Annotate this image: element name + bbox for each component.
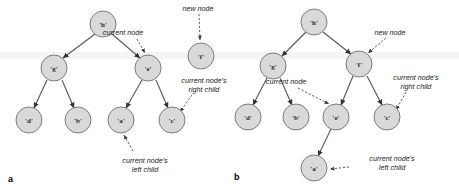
node-label: 'd'	[244, 114, 252, 122]
node-label: 'a'	[117, 117, 124, 125]
tree-node-f[interactable]: 'f'	[346, 51, 372, 77]
node-label: 'e'	[145, 65, 152, 73]
tree-node-b[interactable]: 'b'	[65, 107, 91, 133]
annotation-right-child-line2: right child	[401, 82, 433, 91]
tree-node-a[interactable]: 'a'	[108, 107, 134, 133]
edge-f-e	[341, 76, 353, 105]
leader-right-child	[180, 95, 192, 112]
panel-b-annotations: new node current node current node's rig…	[266, 28, 439, 172]
binary-tree-rotation-figure: 'h' 'g' 'e' 'f' 'd' 'b'	[0, 0, 459, 194]
annotation-left-child-line2: left child	[379, 163, 406, 172]
node-label: 'h'	[310, 19, 318, 27]
annotation-left-child-line2: left child	[132, 165, 159, 174]
panel-a-annotations: current node new node current node's rig…	[103, 4, 227, 174]
panel-b-edges	[253, 32, 382, 156]
node-label: 'a'	[310, 165, 317, 173]
tree-node-a[interactable]: 'a'	[301, 155, 327, 181]
tree-node-h[interactable]: 'h'	[301, 9, 327, 35]
panel-label-a: a	[8, 174, 14, 184]
panel-a: 'h' 'g' 'e' 'f' 'd' 'b'	[8, 4, 227, 184]
leader-current-node	[137, 39, 145, 53]
leader-right-child	[396, 92, 406, 110]
annotation-left-child-line1: current node's	[369, 154, 415, 163]
edge-e-c	[156, 80, 168, 108]
node-label: 'g'	[269, 63, 276, 71]
leader-left-child	[124, 135, 133, 151]
node-label: 'f'	[198, 53, 204, 61]
tree-node-f[interactable]: 'f'	[188, 43, 214, 69]
node-label: 'e'	[333, 114, 340, 122]
annotation-current-node: current node	[266, 77, 306, 86]
edge-g-b	[62, 80, 74, 108]
tree-node-d[interactable]: 'd'	[16, 107, 42, 133]
annotation-right-child-line2: right child	[189, 85, 221, 94]
node-label: 'b'	[74, 117, 82, 125]
node-label: 'd'	[25, 117, 33, 125]
annotation-new-node: new node	[374, 28, 405, 37]
leader-current-node	[298, 88, 329, 104]
tree-node-e[interactable]: 'e'	[323, 104, 349, 130]
edge-f-c	[367, 76, 382, 105]
tree-node-c[interactable]: 'c'	[159, 107, 185, 133]
annotation-right-child-line1: current node's	[393, 73, 439, 82]
node-label: 'g'	[50, 65, 57, 73]
edge-h-f	[323, 32, 351, 54]
panel-label-b: b	[234, 172, 240, 182]
annotation-right-child-line1: current node's	[181, 76, 227, 85]
figure-canvas: 'h' 'g' 'e' 'f' 'd' 'b'	[0, 0, 459, 194]
tree-node-c[interactable]: 'c'	[374, 104, 400, 130]
tree-node-b[interactable]: 'b'	[283, 104, 309, 130]
tree-node-d[interactable]: 'd'	[235, 104, 261, 130]
annotation-new-node: new node	[182, 4, 213, 13]
tree-node-g[interactable]: 'g'	[41, 55, 67, 81]
leader-new-node	[368, 38, 386, 53]
tree-node-g[interactable]: 'g'	[260, 53, 286, 79]
tree-node-e[interactable]: 'e'	[135, 55, 161, 81]
annotation-left-child-line1: current node's	[122, 156, 168, 165]
edge-e-a	[318, 129, 331, 156]
annotation-current-node: current node	[103, 28, 143, 37]
node-label: 'c'	[169, 117, 176, 125]
panel-b: 'h' 'g' 'f' 'd' 'b' 'e'	[234, 9, 439, 182]
leader-new-node	[199, 14, 200, 40]
node-label: 'f'	[356, 61, 362, 69]
node-label: 'c'	[384, 114, 391, 122]
edge-g-d	[34, 80, 47, 108]
edge-e-a	[126, 80, 142, 108]
leader-left-child	[330, 167, 349, 169]
node-label: 'b'	[292, 114, 300, 122]
